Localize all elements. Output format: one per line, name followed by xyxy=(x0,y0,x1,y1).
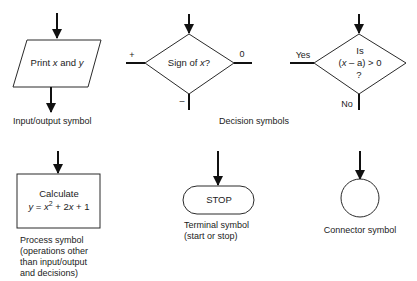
terminal-caption-line1: Terminal symbol xyxy=(184,220,249,230)
terminal-text: STOP xyxy=(206,194,232,205)
branch-yes-label: Yes xyxy=(296,50,311,60)
decision-text-line1: Is xyxy=(356,45,364,56)
flowchart-symbols-diagram: Print x and y Input/output symbol Sign o… xyxy=(0,0,417,281)
decision-text: Sign of x? xyxy=(168,57,210,68)
process-symbol: Calculate y = x2 + 2x + 1 Process symbol… xyxy=(17,151,100,278)
process-text-line2: y = x2 + 2x + 1 xyxy=(27,200,89,212)
process-caption-line2: (operations other xyxy=(20,246,88,256)
decision-symbol-sign: Sign of x? + 0 – xyxy=(126,14,252,110)
decision-symbol-compare: Is (x – a) > 0 ? Yes No xyxy=(290,14,406,110)
connector-symbol: Connector symbol xyxy=(324,151,397,235)
terminal-symbol: STOP Terminal symbol (start or stop) xyxy=(183,151,254,241)
decision-text-line2: (x – a) > 0 xyxy=(338,57,381,68)
decision-text-line3: ? xyxy=(356,69,361,80)
circle-shape xyxy=(341,179,379,217)
branch-plus-label: + xyxy=(129,50,134,60)
process-caption-line1: Process symbol xyxy=(20,235,84,245)
connector-caption: Connector symbol xyxy=(324,225,397,235)
process-caption-line3: than input/output xyxy=(20,257,88,267)
input-output-symbol: Print x and y Input/output symbol xyxy=(13,13,101,126)
io-caption: Input/output symbol xyxy=(13,116,92,126)
decision-caption: Decision symbols xyxy=(219,116,290,126)
process-text-line1: Calculate xyxy=(39,188,79,199)
process-caption-line4: and decisions) xyxy=(20,268,78,278)
terminal-caption-line2: (start or stop) xyxy=(184,231,238,241)
branch-no-label: No xyxy=(341,99,353,109)
branch-minus-label: – xyxy=(179,96,184,106)
branch-zero-label: 0 xyxy=(239,49,244,59)
io-text: Print x and y xyxy=(31,57,85,68)
